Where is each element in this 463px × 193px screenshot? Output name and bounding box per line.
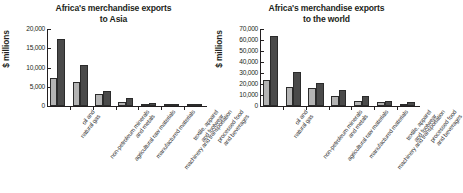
- bar-group[interactable]: [138, 29, 161, 106]
- bar[interactable]: [50, 78, 58, 106]
- bar[interactable]: [141, 104, 149, 106]
- bar[interactable]: [407, 102, 415, 106]
- y-tick-label: 20,000: [26, 26, 45, 33]
- x-tick-mark: [397, 107, 398, 110]
- y-tick-mark: [48, 106, 51, 107]
- bar[interactable]: [354, 101, 362, 106]
- y-tick-label: 30,000: [239, 70, 258, 77]
- y-tick-label: 20,000: [239, 81, 258, 88]
- x-tick-mark: [161, 107, 162, 110]
- bar-group[interactable]: [283, 29, 306, 106]
- bar[interactable]: [385, 101, 393, 107]
- x-tick-mark: [351, 107, 352, 110]
- plot-area-world: 010,00020,00030,00040,00050,00060,00070,…: [213, 0, 426, 193]
- y-tick-label: 40,000: [239, 59, 258, 66]
- bar[interactable]: [362, 96, 370, 106]
- bar-group[interactable]: [397, 29, 420, 106]
- bar[interactable]: [126, 98, 134, 106]
- x-tick-mark: [116, 107, 117, 110]
- x-category-label-line: manufactured materials: [368, 109, 410, 160]
- y-tick-label: 15,000: [26, 45, 45, 52]
- bar[interactable]: [57, 39, 65, 106]
- chart-panel-world: Africa's merchandise exports to the worl…: [213, 0, 426, 193]
- bar[interactable]: [95, 94, 103, 106]
- bar-group[interactable]: [70, 29, 93, 106]
- y-tick-label: 0: [42, 103, 45, 110]
- bar[interactable]: [194, 104, 202, 106]
- bar-group[interactable]: [47, 29, 70, 106]
- bar[interactable]: [73, 82, 81, 106]
- x-category-label: manufactured materials: [368, 109, 410, 160]
- bar[interactable]: [270, 36, 278, 106]
- bar[interactable]: [293, 72, 301, 106]
- y-tick-label: 50,000: [239, 48, 258, 55]
- y-tick-label: 0: [255, 103, 258, 110]
- bar[interactable]: [118, 102, 126, 106]
- chart-panel-asia: Africa's merchandise exports to Asia $ m…: [0, 0, 213, 193]
- bar[interactable]: [308, 88, 316, 106]
- bar[interactable]: [316, 83, 324, 106]
- x-category-label-line: manufactured materials: [155, 109, 197, 160]
- bar[interactable]: [377, 102, 385, 106]
- bar[interactable]: [172, 104, 180, 106]
- bars-container: [47, 29, 207, 106]
- x-tick-mark: [184, 107, 185, 110]
- plot-area-asia: 05,00010,00015,00020,000oil andnatural g…: [0, 0, 213, 193]
- x-tick-mark: [70, 107, 71, 110]
- y-axis-ticks: 05,00010,00015,00020,000: [9, 0, 45, 193]
- y-tick-label: 10,000: [26, 64, 45, 71]
- bar[interactable]: [80, 65, 88, 106]
- y-tick-mark: [261, 106, 264, 107]
- y-tick-label: 5,000: [30, 84, 45, 91]
- bar-group[interactable]: [329, 29, 352, 106]
- bar[interactable]: [164, 104, 172, 106]
- x-tick-mark: [329, 107, 330, 110]
- bars-container: [260, 29, 420, 106]
- bar[interactable]: [339, 90, 347, 106]
- x-axis-line: [260, 106, 420, 107]
- y-tick-label: 60,000: [239, 37, 258, 44]
- bar-group[interactable]: [374, 29, 397, 106]
- x-category-label: oil andnatural gas: [287, 109, 315, 139]
- bar-group[interactable]: [306, 29, 329, 106]
- bar[interactable]: [187, 104, 195, 106]
- bar[interactable]: [103, 91, 111, 106]
- bar-group[interactable]: [351, 29, 374, 106]
- bar[interactable]: [286, 87, 294, 106]
- bar[interactable]: [331, 96, 339, 106]
- y-tick-label: 10,000: [239, 92, 258, 99]
- x-category-label: oil andnatural gas: [74, 109, 102, 139]
- y-axis-ticks: 010,00020,00030,00040,00050,00060,00070,…: [222, 0, 258, 193]
- bar-group[interactable]: [116, 29, 139, 106]
- bar-group[interactable]: [184, 29, 207, 106]
- x-tick-mark: [138, 107, 139, 110]
- bar-group[interactable]: [93, 29, 116, 106]
- x-axis-line: [47, 106, 207, 107]
- x-tick-mark: [283, 107, 284, 110]
- bar-group[interactable]: [260, 29, 283, 106]
- x-tick-mark: [306, 107, 307, 110]
- bar[interactable]: [149, 103, 157, 106]
- y-tick-label: 70,000: [239, 26, 258, 33]
- bar[interactable]: [400, 104, 408, 106]
- x-tick-mark: [93, 107, 94, 110]
- x-tick-mark: [374, 107, 375, 110]
- bar[interactable]: [263, 80, 271, 106]
- bar-group[interactable]: [161, 29, 184, 106]
- x-category-label: manufactured materials: [155, 109, 197, 160]
